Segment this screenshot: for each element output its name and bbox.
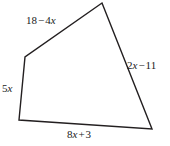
- side-label-bottom-operator: +: [77, 128, 85, 140]
- side-label-right-num2: 11: [146, 59, 157, 71]
- side-label-top-left-operator: −: [37, 14, 45, 26]
- side-label-bottom: 8x+3: [67, 129, 91, 140]
- side-label-right: 2x−11: [127, 60, 156, 71]
- side-label-right-operator: −: [137, 59, 145, 71]
- side-label-top-left-variable: x: [51, 14, 56, 26]
- side-label-left: 5x: [2, 83, 12, 94]
- side-label-top-left: 18−4x: [26, 15, 56, 26]
- side-label-bottom-num2: 3: [86, 128, 92, 140]
- geometry-figure: 18−4x 2x−11 5x 8x+3: [0, 0, 170, 146]
- side-label-left-variable: x: [8, 82, 13, 94]
- side-label-top-left-num1: 18: [26, 14, 37, 26]
